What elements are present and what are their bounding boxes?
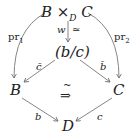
cbar-label: c̄ — [36, 62, 42, 72]
node-bc: (b/c) — [55, 45, 90, 60]
double-arrow-icon: ⇒ — [60, 89, 71, 102]
c-label: c — [97, 112, 103, 122]
b-label: b — [35, 112, 41, 122]
node-c: C — [113, 83, 124, 98]
c-arrow — [76, 98, 112, 121]
node-b: B — [10, 83, 21, 98]
pr2-label: pr2 — [114, 32, 130, 45]
pr1-label: pr1 — [8, 32, 24, 45]
equiv-label: ≃ — [72, 25, 80, 35]
node-pullback: B ×D C — [41, 5, 93, 23]
w-label: w — [57, 25, 66, 35]
bbar-label: b̄ — [100, 62, 106, 72]
node-d: D — [62, 119, 74, 134]
